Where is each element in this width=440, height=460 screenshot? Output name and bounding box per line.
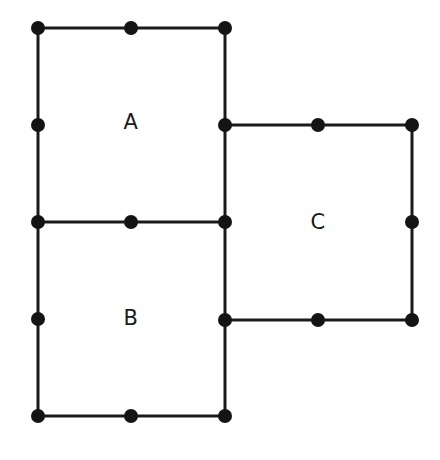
geometry-figure: ABC <box>0 0 440 460</box>
midpoint-c-right <box>405 215 419 229</box>
midpoint-b-bottom <box>124 409 138 423</box>
vertex-b-bottom-left <box>31 409 45 423</box>
midpoint-a-top <box>124 21 138 35</box>
vertex-a-top-right <box>218 21 232 35</box>
vertex-c-bottom-right <box>405 313 419 327</box>
midpoint-ab-shared-edge <box>124 215 138 229</box>
junction-b-c-left <box>218 313 232 327</box>
junction-a-b-left <box>31 215 45 229</box>
junction-a-c-left <box>218 118 232 132</box>
midpoint-c-bottom <box>311 313 325 327</box>
square-a-label: A <box>124 110 139 134</box>
junction-a-b-right <box>218 215 232 229</box>
midpoint-b-left <box>31 312 45 326</box>
midpoint-a-left <box>31 118 45 132</box>
squares-diagram-canvas: ABC <box>0 0 440 460</box>
square-c-label: C <box>310 210 325 234</box>
vertex-a-top-left <box>31 21 45 35</box>
vertex-c-top-right <box>405 118 419 132</box>
square-b-label: B <box>124 306 139 330</box>
vertex-b-bottom-right <box>218 409 232 423</box>
diagram-background <box>0 0 440 460</box>
midpoint-c-top <box>311 118 325 132</box>
